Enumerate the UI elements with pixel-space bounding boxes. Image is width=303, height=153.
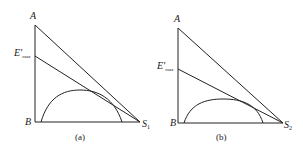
label-E-a: E'max (13, 47, 31, 59)
solubility-curve-b (184, 99, 263, 123)
label-S1: S1 (142, 118, 150, 130)
label-S2: S2 (284, 119, 292, 131)
label-E-b: E'max (156, 60, 174, 72)
line-a-to-s1 (35, 25, 140, 122)
caption-b: (b) (216, 132, 227, 142)
label-B-b: B (170, 117, 176, 128)
line-emax-to-s2 (178, 69, 283, 123)
panel-b: A E'max B S2 (b) (156, 13, 292, 142)
line-emax-to-s1 (35, 56, 140, 122)
line-a-to-s2 (178, 28, 283, 123)
diagram-canvas: A E'max B S1 (a) A E'max B S2 (b) (0, 0, 303, 153)
label-B-a: B (25, 116, 31, 127)
panel-a: A E'max B S1 (a) (13, 10, 150, 142)
label-A-b: A (173, 13, 181, 24)
label-A-a: A (29, 10, 37, 21)
caption-a: (a) (75, 132, 85, 142)
